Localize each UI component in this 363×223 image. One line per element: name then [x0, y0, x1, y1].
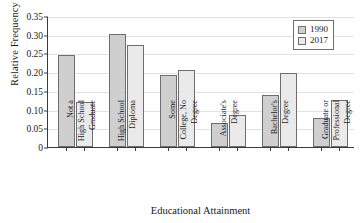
y-axis-tick-mark: [44, 17, 48, 18]
category-label-line: High School: [117, 100, 127, 152]
x-axis-title: Educational Attainment: [47, 205, 354, 216]
category-label-line: Degree: [281, 100, 291, 152]
y-axis-tick-mark: [44, 110, 48, 111]
category-label-line: Degree: [230, 100, 240, 152]
legend-swatch-icon: [298, 37, 306, 45]
y-axis-tick-mark: [44, 91, 48, 92]
category-label-line: Graduate: [88, 100, 98, 152]
gridline: [48, 92, 354, 93]
category-label-line: Degree: [343, 100, 353, 152]
category-label-line: Degree: [190, 100, 200, 152]
category-label: SomeCollege, NoDegree: [159, 152, 195, 204]
category-label: Not aHigh SchoolGraduate: [57, 152, 93, 204]
category-label: Associate'sDegree: [210, 152, 246, 204]
category-label-line: Graduate or: [321, 100, 331, 152]
y-axis-tick-mark: [44, 148, 48, 149]
category-label: Graduate orProfessionalDegree: [312, 152, 348, 204]
legend-item-2017: 2017: [298, 35, 328, 46]
category-label-line: Diploma: [128, 100, 138, 152]
gridline: [48, 73, 354, 74]
category-label-line: Associate's: [219, 100, 229, 152]
legend-label: 1990: [310, 24, 328, 35]
category-label-line: High School: [77, 100, 87, 152]
legend: 19902017: [293, 20, 334, 50]
y-axis-tick-mark: [44, 73, 48, 74]
category-label: High SchoolDiploma: [108, 152, 144, 204]
category-label-line: Bachelor's: [270, 100, 280, 152]
category-label-line: Some: [168, 100, 178, 152]
category-label: Bachelor'sDegree: [261, 152, 297, 204]
legend-label: 2017: [310, 35, 328, 46]
legend-swatch-icon: [298, 26, 306, 34]
y-axis-tick-mark: [44, 35, 48, 36]
y-axis-title: Relative Frequency: [9, 0, 23, 104]
bar-chart: Relative Frequency 00.050.100.150.200.25…: [0, 0, 363, 223]
y-axis-tick-mark: [44, 54, 48, 55]
category-label-line: College, No: [179, 100, 189, 152]
legend-item-1990: 1990: [298, 24, 328, 35]
y-axis-tick-mark: [44, 129, 48, 130]
category-label-line: Not a: [66, 100, 76, 152]
gridline: [48, 17, 354, 18]
gridline: [48, 54, 354, 55]
category-label-line: Professional: [332, 100, 342, 152]
